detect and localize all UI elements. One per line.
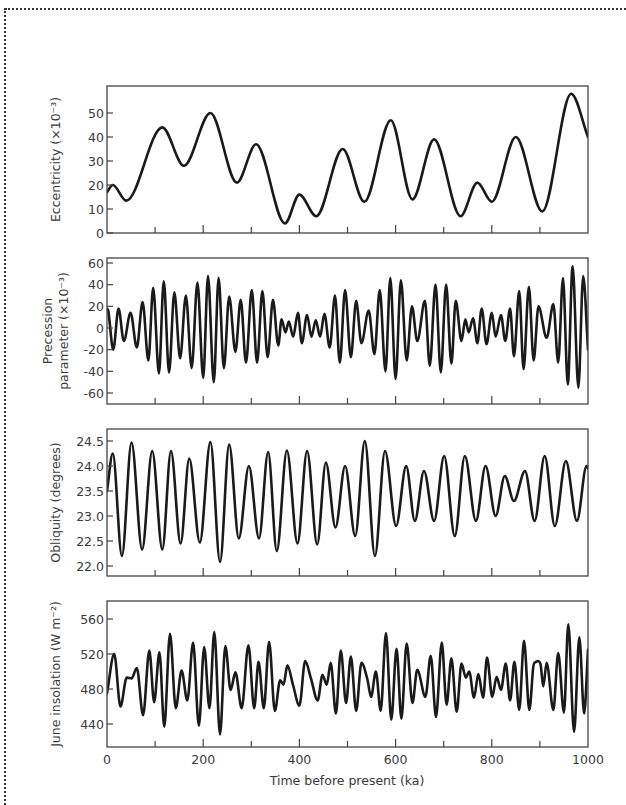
eccentricity-panel: 01020304050Eccentricity (×10⁻³) [48, 86, 588, 241]
eccentricity-ytick-label: 40 [88, 130, 104, 145]
x-tick-label: 400 [287, 752, 311, 767]
eccentricity-series-line [107, 94, 588, 224]
precession-ytick-label: -20 [84, 342, 104, 357]
june_insolation-ytick-label: 560 [80, 612, 104, 627]
precession-ytick-label: 0 [96, 321, 104, 336]
x-axis: 02004006008001000 [103, 752, 604, 767]
obliquity-panel: 22.022.523.023.524.024.5Obliquity (degre… [48, 429, 588, 576]
precession-y-axis-title: Precessionparameter (×10⁻³) [40, 272, 71, 390]
eccentricity-ytick-label: 50 [88, 106, 104, 121]
obliquity-y-axis-title: Obliquity (degrees) [48, 442, 63, 562]
obliquity-ytick-label: 24.5 [76, 434, 104, 449]
obliquity-ytick-label: 23.0 [76, 509, 104, 524]
x-tick-label: 200 [191, 752, 215, 767]
x-tick-label: 1000 [572, 752, 604, 767]
obliquity-series-line [107, 441, 588, 562]
precession-panel: -60-40-200204060Precessionparameter (×10… [40, 256, 588, 405]
obliquity-ytick-label: 23.5 [76, 484, 104, 499]
june_insolation-ytick-label: 480 [80, 682, 104, 697]
x-tick-label: 800 [480, 752, 504, 767]
precession-ytick-label: -40 [84, 364, 104, 379]
x-tick-label: 600 [384, 752, 408, 767]
eccentricity-ytick-label: 20 [88, 178, 104, 193]
june_insolation-ytick-label: 520 [80, 647, 104, 662]
june_insolation-ytick-label: 440 [80, 717, 104, 732]
obliquity-ytick-label: 22.0 [76, 559, 104, 574]
obliquity-ytick-label: 24.0 [76, 459, 104, 474]
june_insolation-y-axis-title: June insolation (W m⁻²) [48, 601, 63, 748]
obliquity-ytick-label: 22.5 [76, 534, 104, 549]
x-axis-title: Time before present (ka) [269, 773, 425, 788]
eccentricity-ytick-label: 30 [88, 154, 104, 169]
orbital-parameters-chart: 01020304050Eccentricity (×10⁻³) -60-40-2… [0, 0, 626, 805]
x-tick-label: 0 [103, 752, 111, 767]
eccentricity-ytick-label: 0 [96, 226, 104, 241]
eccentricity-y-axis-title: Eccentricity (×10⁻³) [48, 97, 63, 222]
precession-series-line [107, 266, 588, 387]
precession-ytick-label: 60 [88, 256, 104, 271]
obliquity-plot-frame [107, 429, 588, 576]
june-insolation-panel: 440480520560June insolation (W m⁻²) [48, 601, 588, 748]
precession-ytick-label: 40 [88, 277, 104, 292]
eccentricity-ytick-label: 10 [88, 202, 104, 217]
june_insolation-series-line [107, 624, 588, 734]
precession-ytick-label: 20 [88, 299, 104, 314]
precession-ytick-label: -60 [84, 386, 104, 401]
